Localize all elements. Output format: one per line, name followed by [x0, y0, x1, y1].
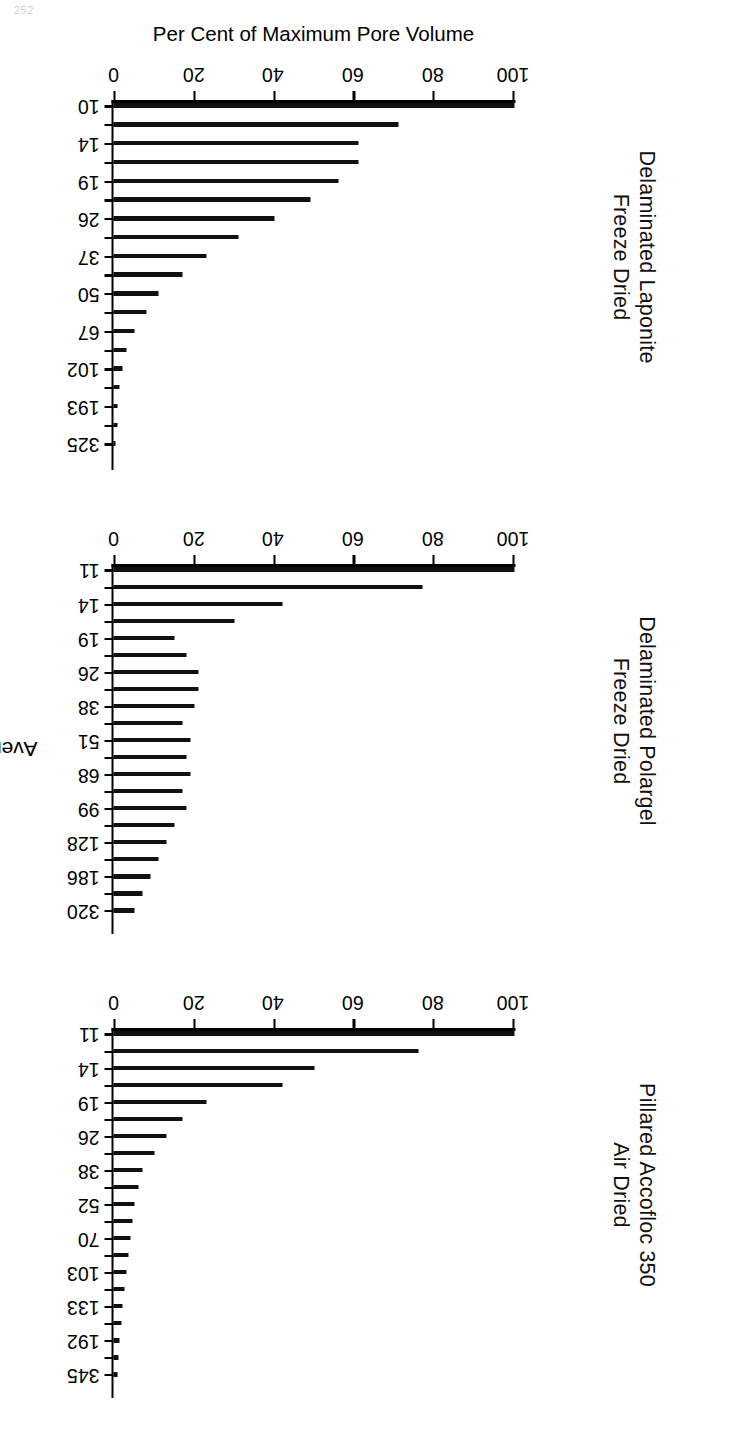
y-tick — [432, 555, 434, 564]
bar — [114, 823, 174, 827]
y-tick-label: 100 — [496, 63, 529, 86]
bar — [114, 1031, 515, 1035]
x-tick — [105, 1068, 114, 1070]
panel-pillared-accofloc-350: Pillared Accofloc 350 Air Dried 11141926… — [0, 950, 751, 1420]
x-tick-label: 19 — [78, 171, 100, 194]
y-tick-label: 0 — [108, 991, 119, 1014]
bar — [114, 1355, 119, 1359]
bar — [114, 404, 118, 408]
x-tick-label: 19 — [78, 628, 100, 651]
x-tick — [105, 218, 114, 220]
x-tick — [105, 893, 114, 895]
x-tick-label: 19 — [78, 1092, 100, 1115]
x-tick — [105, 256, 114, 258]
bar — [114, 891, 142, 895]
x-tick — [105, 621, 114, 623]
x-tick-label: 325 — [67, 433, 100, 456]
panel-title-line1: Pillared Accofloc 350 — [634, 1083, 658, 1287]
y-tick-label: 80 — [421, 991, 443, 1014]
figure: Delaminated Laponite Freeze Dried Per Ce… — [0, 0, 751, 1456]
y-tick-label: 80 — [421, 527, 443, 550]
y-tick-label: 40 — [262, 991, 284, 1014]
x-tick-label: 52 — [78, 1194, 100, 1217]
y-tick-label: 0 — [108, 527, 119, 550]
bar — [114, 738, 190, 742]
bar — [114, 653, 186, 657]
bar — [114, 755, 186, 759]
bar — [114, 1185, 138, 1189]
x-tick — [105, 569, 114, 571]
x-tick-label: 70 — [78, 1228, 100, 1251]
x-tick — [105, 672, 114, 674]
bar — [114, 1304, 122, 1308]
x-tick — [105, 162, 114, 164]
panel-title: Delaminated Laponite Freeze Dried — [607, 22, 659, 492]
x-tick — [105, 842, 114, 844]
x-tick-label: 103 — [67, 1262, 100, 1285]
x-tick — [105, 876, 114, 878]
panel-title-line1: Delaminated Polargel — [634, 616, 658, 826]
x-tick-label: 11 — [79, 559, 99, 582]
panel-title: Delaminated Polargel Freeze Dried — [607, 486, 659, 956]
y-tick-label: 0 — [108, 63, 119, 86]
x-tick — [105, 791, 114, 793]
bar — [114, 1253, 128, 1257]
y-tick — [193, 555, 195, 564]
y-tick — [432, 1019, 434, 1028]
plot-area: 11141926385270103133192345 020406080100 — [111, 1028, 515, 1398]
bar — [114, 789, 182, 793]
x-tick — [105, 638, 114, 640]
x-tick-label: 10 — [78, 95, 100, 118]
bar — [114, 254, 206, 258]
y-axis-title: Per Cent of Maximum Pore Volume — [152, 22, 473, 46]
x-tick-label: 51 — [78, 730, 100, 753]
x-tick — [105, 1033, 114, 1035]
x-tick — [105, 1238, 114, 1240]
x-axis-title: Average Pore Diameter (Å) — [0, 737, 37, 761]
x-tick-label: 99 — [78, 798, 100, 821]
y-tick — [273, 555, 275, 564]
bar — [114, 585, 423, 589]
x-tick — [105, 406, 114, 408]
bar — [114, 348, 126, 352]
y-tick-label: 40 — [262, 527, 284, 550]
x-tick — [105, 723, 114, 725]
bar — [114, 1083, 282, 1087]
bar — [114, 772, 190, 776]
y-tick-label: 60 — [342, 527, 364, 550]
bar — [114, 857, 158, 861]
x-tick — [105, 181, 114, 183]
bar — [114, 806, 186, 810]
x-tick-label: 102 — [67, 358, 100, 381]
bar — [114, 840, 166, 844]
plot-area: Per Cent of Maximum Pore Volume 10141926… — [111, 100, 515, 470]
x-tick — [105, 350, 114, 352]
x-tick — [105, 1085, 114, 1087]
x-tick — [105, 387, 114, 389]
bar — [114, 619, 234, 623]
bar — [114, 291, 158, 295]
bar — [114, 216, 274, 220]
x-tick — [105, 425, 114, 427]
y-tick — [113, 91, 115, 100]
x-tick-label: 26 — [78, 1126, 100, 1149]
bar — [114, 721, 182, 725]
x-tick — [105, 1170, 114, 1172]
x-tick-label: 38 — [78, 696, 100, 719]
bar — [114, 235, 238, 239]
bar — [114, 1134, 166, 1138]
bar — [114, 329, 134, 333]
x-tick-label: 128 — [67, 832, 100, 855]
bar — [114, 272, 182, 276]
x-tick-label: 192 — [67, 1330, 100, 1353]
x-tick — [105, 237, 114, 239]
y-tick — [352, 555, 354, 564]
x-tick — [105, 1340, 114, 1342]
bar — [114, 385, 120, 389]
panel-delaminated-laponite: Delaminated Laponite Freeze Dried Per Ce… — [0, 22, 751, 492]
x-tick — [105, 1221, 114, 1223]
x-tick — [105, 587, 114, 589]
x-tick — [105, 1102, 114, 1104]
y-tick — [432, 91, 434, 100]
x-tick — [105, 1051, 114, 1053]
